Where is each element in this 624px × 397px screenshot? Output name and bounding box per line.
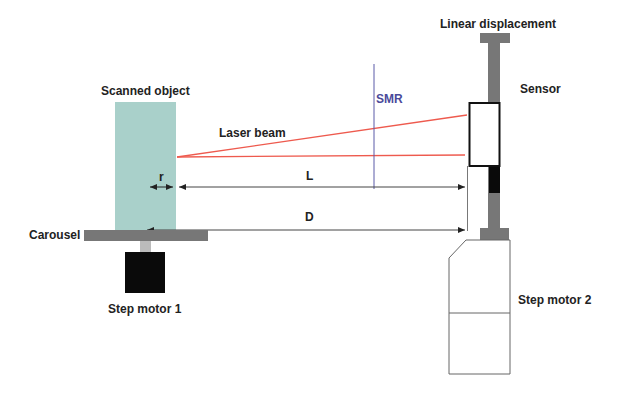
laser-beam-label: Laser beam — [219, 126, 286, 140]
step-motor-2-label: Step motor 2 — [518, 293, 591, 307]
r-label: r — [159, 170, 164, 184]
rail-bottom-cap — [480, 228, 509, 240]
rail-top-cap — [480, 33, 510, 43]
laser-scanning-setup-diagram: Scanned object Laser beam SMR Linear dis… — [0, 0, 624, 397]
scanned-object-label: Scanned object — [101, 84, 190, 98]
sensor-box — [470, 103, 500, 166]
rail-black-carriage — [489, 164, 500, 193]
l-label: L — [306, 169, 313, 183]
d-label: D — [305, 210, 314, 224]
step-motor-1-label: Step motor 1 — [108, 302, 181, 316]
linear-displacement-label: Linear displacement — [440, 17, 556, 31]
laser-beam-lower — [177, 155, 465, 157]
diagram-canvas — [0, 0, 624, 397]
carousel — [84, 230, 208, 241]
smr-label: SMR — [376, 92, 403, 106]
scanned-object — [115, 102, 176, 230]
step-motor-2 — [449, 240, 510, 374]
carousel-label: Carousel — [29, 228, 80, 242]
motor-1-shaft — [140, 241, 151, 252]
sensor-label: Sensor — [520, 82, 561, 96]
step-motor-1 — [125, 252, 165, 293]
